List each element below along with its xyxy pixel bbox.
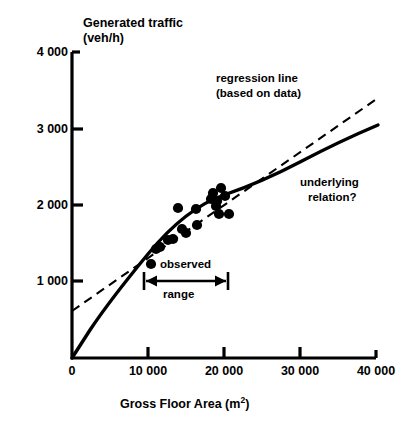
y-axis-title: Generated traffic [83, 16, 183, 30]
data-point [155, 242, 165, 252]
data-point [220, 191, 230, 201]
y-tick-label-4000: 4 000 [16, 45, 68, 59]
regression-line [72, 98, 378, 311]
x-axis-title-tail: ) [245, 397, 249, 411]
y-tick-label-2000: 2 000 [16, 198, 68, 212]
x-tick-label-0: 0 [58, 364, 86, 378]
data-point [191, 204, 201, 214]
x-tick-label-40000: 40 000 [342, 364, 404, 378]
data-point [173, 203, 183, 213]
x-tick-label-20000: 20 000 [190, 364, 258, 378]
y-axis-ticks [72, 129, 83, 281]
regression-line-annotation-line1: regression line [216, 72, 298, 85]
chart-container: 4 000 3 000 2 000 1 000 0 10 000 20 000 … [0, 0, 404, 433]
underlying-relation-annotation-line2: relation? [308, 191, 357, 204]
y-tick-label-3000: 3 000 [16, 122, 68, 136]
x-axis-title: Gross Floor Area (m2) [120, 396, 249, 412]
observed-range-annotation-line2: range [163, 288, 194, 301]
data-point [168, 234, 178, 244]
x-tick-label-30000: 30 000 [266, 364, 334, 378]
data-point [181, 228, 191, 238]
range-arrow-left [146, 276, 157, 287]
data-point [214, 209, 224, 219]
y-tick-label-1000: 1 000 [16, 274, 68, 288]
data-point [146, 259, 156, 269]
x-tick-label-10000: 10 000 [114, 364, 182, 378]
data-point [224, 209, 234, 219]
observed-range-annotation-line1: observed [160, 258, 211, 271]
range-arrow-right [215, 276, 226, 287]
x-axis-ticks [148, 347, 300, 358]
data-points [146, 183, 234, 269]
y-axis-unit: (veh/h) [83, 31, 124, 45]
x-axis-title-text: Gross Floor Area (m [120, 397, 240, 411]
curve-discard [72, 120, 378, 358]
underlying-relation-annotation-line1: underlying [300, 176, 359, 189]
regression-line-annotation-line2: (based on data) [216, 87, 301, 100]
data-point [192, 220, 202, 230]
underlying-relation-curve [72, 125, 378, 358]
